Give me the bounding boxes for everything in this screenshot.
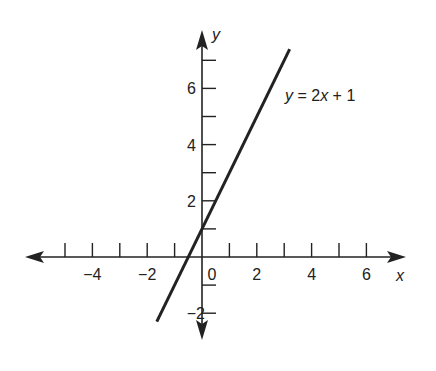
- y-tick-label: 4: [187, 137, 196, 154]
- x-tick-label: 2: [252, 266, 261, 283]
- y-axis-label: y: [211, 26, 221, 43]
- y-tick-label: −2: [187, 305, 205, 322]
- x-tick-label: −4: [83, 266, 101, 283]
- line-y-equals-2x-plus-1: [157, 49, 290, 322]
- equation-plus-one: + 1: [328, 87, 355, 104]
- y-tick-label: 6: [187, 80, 196, 97]
- x-axis-label: x: [395, 267, 405, 284]
- equation-equals: = 2: [293, 87, 320, 104]
- x-tick-label: 4: [307, 266, 316, 283]
- coordinate-plane: −4−20246 −2246 y x y = 2x + 1: [0, 0, 436, 371]
- x-axis-ticks: [65, 243, 366, 257]
- x-tick-label: −2: [138, 266, 156, 283]
- equation-annotation: y = 2x + 1: [284, 87, 355, 104]
- x-tick-label: 0: [208, 266, 217, 283]
- x-tick-label: 6: [362, 266, 371, 283]
- y-tick-label: 2: [187, 193, 196, 210]
- x-tick-labels: −4−20246: [83, 266, 371, 283]
